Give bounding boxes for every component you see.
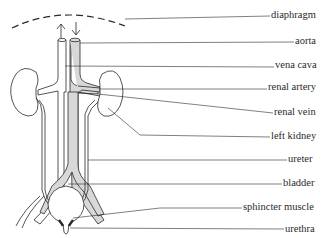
label-aorta: aorta: [295, 35, 316, 47]
leader-lines: [65, 16, 294, 229]
label-left-kidney: left kidney: [271, 130, 316, 142]
bladder: [48, 186, 84, 234]
label-ureter: ureter: [288, 153, 312, 165]
ureter-left-inner: [39, 100, 52, 205]
label-sphincter-muscle: sphincter muscle: [243, 201, 314, 213]
label-renal-vein: renal vein: [274, 106, 316, 118]
ureter-left: [36, 98, 50, 206]
left-kidney: [98, 71, 123, 116]
right-kidney: [11, 68, 38, 116]
label-urethra: urethra: [285, 223, 315, 235]
label-diaphragm: diaphragm: [271, 9, 316, 21]
flow-arrows: [57, 22, 80, 38]
label-bladder: bladder: [283, 177, 315, 189]
label-vena-cava: vena cava: [275, 59, 317, 71]
diaphragm-arc: [12, 15, 125, 28]
label-renal-artery: renal artery: [268, 81, 316, 93]
